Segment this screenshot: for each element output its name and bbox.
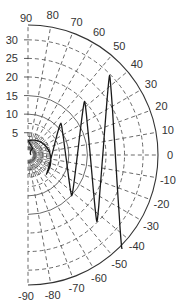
angle-tick-label: 50 (113, 40, 125, 52)
radial-tick-label: 25 (6, 52, 18, 64)
angle-tick-label: -20 (153, 198, 169, 210)
radial-tick-label: 20 (6, 71, 18, 83)
angle-tick-label: 0 (167, 149, 173, 161)
grid-spoke (31, 55, 111, 151)
radial-tick-label: 30 (6, 34, 18, 46)
angle-tick-label: -40 (129, 240, 145, 252)
angle-tick-label: -30 (143, 220, 159, 232)
grid-spoke (31, 159, 111, 255)
radial-tick-label: 15 (6, 90, 18, 102)
angle-tick-label: 20 (155, 100, 167, 112)
angle-tick-label: 90 (20, 12, 32, 24)
polar-chart: 9080706050403020100-10-20-30-40-50-60-70… (0, 0, 185, 308)
angle-tick-label: -90 (18, 290, 34, 302)
grid-spoke (33, 132, 156, 154)
radial-tick-label: 10 (6, 108, 18, 120)
grid-spoke (29, 27, 51, 150)
angle-tick-label: -60 (91, 272, 107, 284)
angle-tick-label: -80 (45, 289, 61, 301)
angle-tick-label: 60 (93, 26, 105, 38)
grid-spoke (33, 111, 151, 154)
grid-ring (28, 77, 106, 233)
angle-tick-label: -50 (111, 258, 127, 270)
radial-tick-labels: 51015202530 (6, 34, 28, 139)
radial-tick-label: 5 (12, 127, 18, 139)
grid-spoke (29, 160, 51, 283)
angle-tick-label: 10 (162, 124, 174, 136)
angle-tick-label: 70 (70, 16, 82, 28)
grid-spoke (30, 160, 73, 278)
grid-spoke (30, 33, 73, 151)
angle-tick-label: -70 (69, 282, 85, 294)
angle-tick-label: 40 (131, 58, 143, 70)
angle-tick-label: 30 (145, 78, 157, 90)
grid-spoke (32, 158, 128, 238)
angular-tick-labels: 9080706050403020100-10-20-30-40-50-60-70… (18, 9, 176, 302)
angle-tick-label: 80 (47, 9, 59, 21)
angle-tick-label: -10 (160, 174, 176, 186)
